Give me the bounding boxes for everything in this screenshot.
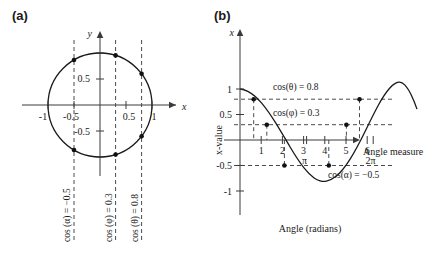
panel-b-xtick-pi: π bbox=[302, 155, 307, 166]
panel-a-callout-cos-theta: cos (θ) = 0.8 bbox=[130, 194, 141, 242]
panel-a-x-axis-name: x bbox=[181, 101, 187, 112]
y-axis-arrow-icon bbox=[97, 31, 104, 38]
panel-a-callout-cos-alpha: cos (α) = −0.5 bbox=[62, 188, 73, 242]
panel-a-plot: -1 -0.5 0.5 1 0.5 -0.5 x y bbox=[0, 0, 210, 253]
panel-b-callout-cos-phi: cos(φ) = 0.3 bbox=[273, 108, 320, 119]
panel-b-ytick-0-5: 0.5 bbox=[220, 109, 233, 120]
panel-b-xtick-2: 2 bbox=[280, 145, 285, 156]
panel-b-y-axis-symbol: x bbox=[229, 27, 235, 38]
panel-b-callout-cos-alpha: cos(α) = −0.5 bbox=[328, 170, 380, 181]
panel-a-ytick--0-5: -0.5 bbox=[74, 126, 90, 137]
panel-b-xtick-4: 4 bbox=[322, 145, 327, 156]
panel-b-xtick-1: 1 bbox=[259, 145, 264, 156]
panel-b-xtick-5: 5 bbox=[344, 145, 349, 156]
panel-a-y-axis-name: y bbox=[87, 28, 93, 39]
panel-a: (a) -1 -0.5 0.5 1 bbox=[0, 0, 210, 253]
panel-b-x-axis-name: Angle measure bbox=[363, 146, 424, 157]
panel-b: (b) bbox=[210, 0, 435, 253]
panel-a-xtick--0-5: -0.5 bbox=[63, 111, 79, 122]
y-axis-arrow-icon bbox=[237, 29, 244, 36]
panel-b-ytick-1: 1 bbox=[227, 84, 232, 95]
panel-a-callout-cos-phi: cos (φ) = 0.3 bbox=[104, 193, 115, 242]
x-axis-arrow-icon bbox=[169, 102, 176, 109]
panel-b-axes bbox=[224, 29, 360, 215]
panel-b-ytick--1: -1 bbox=[224, 186, 232, 197]
panel-b-y-axis-name: x-value bbox=[213, 124, 224, 155]
panel-b-plot: 1 2 3 4 5 6 π 2π 1 0.5 -0.5 -1 x Angle m… bbox=[210, 0, 435, 253]
panel-a-ytick-0-5: 0.5 bbox=[78, 73, 91, 84]
panel-b-callout-cos-theta: cos(θ) = 0.8 bbox=[273, 82, 319, 93]
panel-a-xtick-0-5: 0.5 bbox=[123, 111, 136, 122]
panel-a-xtick--1: -1 bbox=[39, 111, 47, 122]
figure-cosine-unit-circle: (a) -1 -0.5 0.5 1 bbox=[0, 0, 435, 253]
panel-a-xtick-1: 1 bbox=[152, 111, 157, 122]
panel-b-ytick--0-5: -0.5 bbox=[216, 160, 232, 171]
panel-b-caption: Angle (radians) bbox=[279, 223, 341, 235]
